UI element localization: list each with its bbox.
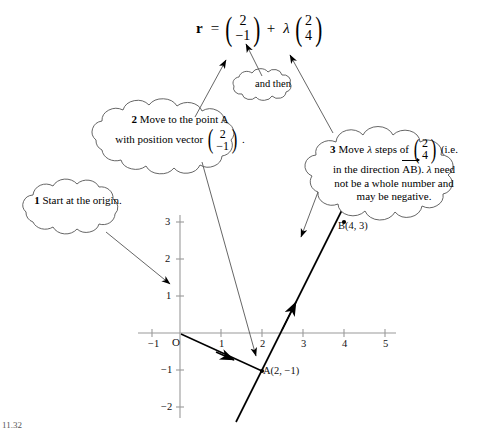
callout-3-line2-c: need	[434, 163, 455, 175]
y-tick-label-3: 3	[165, 216, 170, 227]
callout-3-line1-b: steps of	[375, 143, 409, 157]
callout-2-vector: ( 2 −1 )	[206, 128, 239, 153]
y-tick-label--2: −2	[161, 401, 172, 412]
vector-d-bottom: 4	[305, 29, 312, 44]
equation-lhs: r	[196, 20, 203, 37]
axes-group	[138, 215, 396, 418]
y-tick-label-1: 1	[166, 290, 171, 301]
callout-3-line2-b: ).	[418, 163, 424, 175]
x-tick-label-3: 3	[301, 338, 306, 349]
callout-3-number: 3	[330, 143, 336, 157]
equation-equals: =	[211, 20, 219, 37]
paren-open-icon: (	[295, 15, 302, 42]
x-tick-label-4: 4	[342, 338, 347, 349]
x-tick-label-5: 5	[383, 338, 388, 349]
equation-plus: +	[267, 20, 275, 37]
equation-vector-a: ( 2 −1 )	[223, 14, 263, 43]
paren-close-icon: )	[254, 15, 261, 42]
callout-and-then-text: and then	[238, 77, 308, 90]
callout-3-text: 3 Move λ steps of ( 2 4 ) (i.e. in the d…	[318, 137, 470, 204]
callout-3-line4: may be negative.	[318, 190, 470, 204]
vector-AB-overarrow-icon: AB	[402, 163, 417, 177]
callout-1-number: 1	[34, 194, 40, 206]
x-tick-label-2: 2	[260, 338, 265, 349]
callout-2-line2: with position vector	[115, 133, 203, 147]
callout-3-line2-a: in the direction	[333, 163, 400, 175]
line-AB	[236, 208, 346, 422]
vector-equation: r = ( 2 −1 ) + λ ( 2 4 )	[196, 14, 324, 43]
callout-3-vector-bottom: 4	[422, 149, 428, 161]
callout-1-body: Start at the origin.	[42, 194, 121, 206]
x-tick-label-1: 1	[219, 338, 224, 349]
point-B-label: B(4, 3)	[338, 220, 368, 231]
equation-vector-d: ( 2 4 )	[293, 14, 325, 43]
callout-3-line3: not be a whole number and	[318, 177, 470, 191]
callout-3-line1-c: (i.e.	[441, 143, 458, 157]
x-tick-label--1: −1	[148, 338, 159, 349]
figure-caption: 11.32	[2, 420, 22, 430]
point-A-label: A(2, −1)	[263, 365, 299, 376]
paren-close-icon: )	[232, 129, 238, 151]
paren-close-icon: )	[431, 139, 437, 161]
callout-1-text: 1 Start at the origin.	[30, 194, 126, 208]
callout-2-vector-bottom: −1	[216, 140, 229, 152]
y-tick-label--1: −1	[161, 364, 172, 375]
vector-a-bottom: −1	[235, 29, 250, 44]
callout-3-leader-up	[290, 55, 333, 133]
callout-cloud-and-then[interactable]	[233, 44, 291, 100]
callout-2-number: 2	[132, 113, 138, 125]
callout-2-text: 2 Move to the point A with position vect…	[100, 113, 260, 153]
callout-3-leader-down	[301, 192, 318, 237]
callout-3-line2-lambda: λ	[427, 163, 432, 175]
callout-2-line1: Move to the point A	[140, 113, 229, 125]
equation-lambda: λ	[283, 20, 290, 37]
diagram-canvas	[0, 0, 488, 435]
callout-3-lambda: λ	[367, 143, 372, 157]
y-tick-label-2: 2	[165, 253, 170, 264]
callout-3-line1-a: Move	[339, 143, 365, 157]
origin-label: O	[172, 336, 180, 348]
figure-vector-line-diagram: r = ( 2 −1 ) + λ ( 2 4 ) 1	[0, 0, 488, 435]
paren-open-icon: (	[208, 129, 214, 151]
vector-a-top: 2	[239, 14, 246, 29]
paren-open-icon: (	[225, 15, 232, 42]
vector-d-top: 2	[305, 14, 312, 29]
callout-2-period: .	[242, 133, 245, 147]
paren-close-icon: )	[315, 15, 322, 42]
callout-1-leader	[106, 232, 170, 284]
callout-2-leader-down	[202, 162, 256, 356]
